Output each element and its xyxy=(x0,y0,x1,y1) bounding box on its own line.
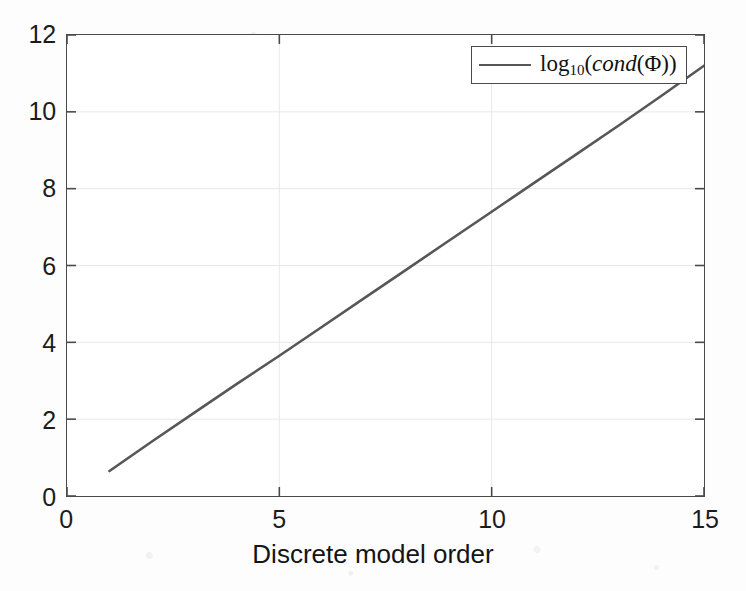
x-tick-label: 15 xyxy=(691,505,718,534)
y-axis-tick-labels: 024681012 xyxy=(0,0,56,591)
legend-base-subscript: 10 xyxy=(569,62,584,78)
y-tick-label: 6 xyxy=(42,251,56,280)
x-tick-label: 5 xyxy=(272,505,286,534)
y-tick-label: 2 xyxy=(42,405,56,434)
legend-line-sample-icon xyxy=(479,64,531,66)
legend-entry-label: log10(cond(Φ)) xyxy=(540,52,677,78)
data-series-layer xyxy=(67,35,704,496)
legend-cond-text: cond xyxy=(592,51,637,76)
y-tick-label: 8 xyxy=(42,174,56,203)
x-axis-title: Discrete model order xyxy=(0,539,746,570)
legend-open-paren: ( xyxy=(584,51,592,76)
y-tick-label: 4 xyxy=(42,328,56,357)
figure-canvas: 024681012 051015 Discrete model order lo… xyxy=(0,0,746,591)
legend-close-parens: )) xyxy=(661,51,676,76)
legend: log10(cond(Φ)) xyxy=(471,46,687,84)
x-axis-tick-labels: 051015 xyxy=(0,505,746,539)
y-tick-label: 10 xyxy=(29,97,56,126)
x-tick-label: 10 xyxy=(478,505,505,534)
y-tick-label: 12 xyxy=(29,20,56,49)
series-line-0 xyxy=(109,66,704,471)
x-tick-label: 0 xyxy=(59,505,73,534)
legend-log-text: log xyxy=(540,51,569,76)
plot-area xyxy=(66,34,705,497)
legend-phi-symbol: Φ xyxy=(644,51,661,76)
